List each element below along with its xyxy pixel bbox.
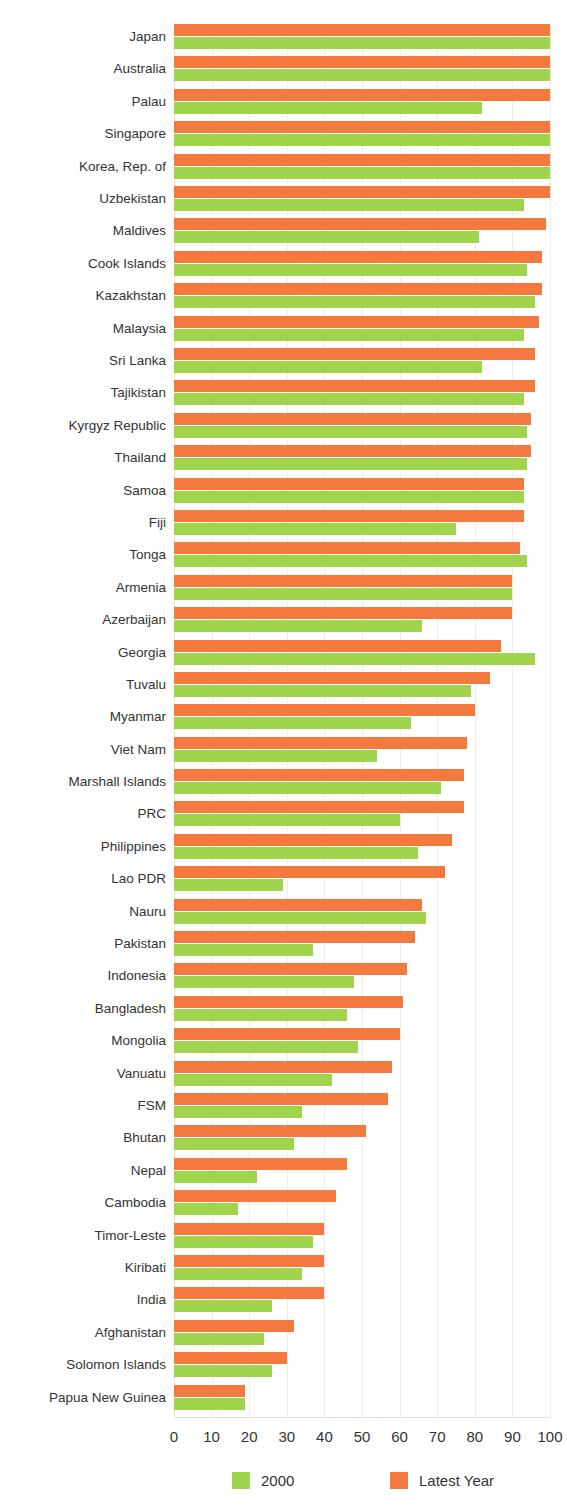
category-label: Cook Islands (0, 257, 166, 271)
x-tick-label-40: 40 (316, 1428, 333, 1445)
bar-2000 (174, 814, 400, 826)
bar-latest-year (174, 510, 524, 522)
bar-latest-year (174, 899, 422, 911)
category-label: FSM (0, 1099, 166, 1113)
bar-row (174, 801, 550, 832)
category-label: Australia (0, 62, 166, 76)
bar-2000 (174, 134, 550, 146)
bar-latest-year (174, 251, 542, 263)
category-label: India (0, 1293, 166, 1307)
bar-latest-year (174, 1093, 388, 1105)
category-label: Viet Nam (0, 743, 166, 757)
bar-latest-year (174, 380, 535, 392)
bar-2000 (174, 717, 411, 729)
category-label: Philippines (0, 840, 166, 854)
bar-2000 (174, 1171, 257, 1183)
bar-2000 (174, 102, 482, 114)
bar-2000 (174, 750, 377, 762)
bar-row (174, 283, 550, 314)
bar-row (174, 1061, 550, 1092)
bar-2000 (174, 1138, 294, 1150)
bar-row (174, 1385, 550, 1416)
bar-latest-year (174, 640, 501, 652)
bar-latest-year (174, 1385, 245, 1397)
bar-2000 (174, 1300, 272, 1312)
legend-item[interactable]: 2000 (232, 1472, 294, 1489)
bar-latest-year (174, 1061, 392, 1073)
bar-row (174, 704, 550, 735)
category-label: Nauru (0, 905, 166, 919)
bar-latest-year (174, 316, 539, 328)
bar-2000 (174, 620, 422, 632)
category-label: Thailand (0, 451, 166, 465)
bar-latest-year (174, 704, 475, 716)
bar-row (174, 575, 550, 606)
bar-latest-year (174, 186, 550, 198)
bar-row (174, 1028, 550, 1059)
legend-item[interactable]: Latest Year (390, 1472, 494, 1489)
category-label: Tajikistan (0, 386, 166, 400)
bar-row (174, 413, 550, 444)
bar-row (174, 1352, 550, 1383)
x-axis-tick-labels: 0102030405060708090100 (174, 1428, 550, 1450)
bar-row (174, 89, 550, 120)
x-tick-label-0: 0 (170, 1428, 178, 1445)
bar-2000 (174, 231, 479, 243)
bar-row (174, 931, 550, 962)
bar-2000 (174, 393, 524, 405)
bar-2000 (174, 1041, 358, 1053)
category-label: Pakistan (0, 937, 166, 951)
bar-2000 (174, 782, 441, 794)
bar-2000 (174, 264, 527, 276)
category-label: Tonga (0, 548, 166, 562)
bar-row (174, 478, 550, 509)
bar-latest-year (174, 931, 415, 943)
bar-2000 (174, 1074, 332, 1086)
bar-row (174, 834, 550, 865)
bar-latest-year (174, 801, 464, 813)
bar-latest-year (174, 1320, 294, 1332)
x-tick-label-20: 20 (241, 1428, 258, 1445)
bar-2000 (174, 976, 354, 988)
bar-2000 (174, 458, 527, 470)
category-label: Lao PDR (0, 872, 166, 886)
category-label: Maldives (0, 224, 166, 238)
bar-latest-year (174, 1223, 324, 1235)
category-label: Timor-Leste (0, 1229, 166, 1243)
legend-swatch-icon (390, 1472, 408, 1489)
category-label: Afghanistan (0, 1326, 166, 1340)
bar-row (174, 218, 550, 249)
bar-row (174, 316, 550, 347)
bar-row (174, 899, 550, 930)
category-label: Bangladesh (0, 1002, 166, 1016)
bar-latest-year (174, 1352, 287, 1364)
category-label: Palau (0, 95, 166, 109)
bar-row (174, 737, 550, 768)
bar-latest-year (174, 56, 550, 68)
bar-row (174, 1255, 550, 1286)
category-label: Kyrgyz Republic (0, 419, 166, 433)
category-label: Myanmar (0, 710, 166, 724)
legend-label: Latest Year (419, 1472, 494, 1489)
x-tick-label-70: 70 (429, 1428, 446, 1445)
bar-latest-year (174, 1287, 324, 1299)
category-label: Sri Lanka (0, 354, 166, 368)
bar-row (174, 56, 550, 87)
bar-2000 (174, 1333, 264, 1345)
bar-latest-year (174, 24, 550, 36)
bar-2000 (174, 588, 512, 600)
category-label: Kazakhstan (0, 289, 166, 303)
bar-2000 (174, 555, 527, 567)
chart-legend: 2000Latest Year (0, 1472, 567, 1498)
bar-row (174, 510, 550, 541)
category-label: Marshall Islands (0, 775, 166, 789)
bar-latest-year (174, 478, 524, 490)
bar-latest-year (174, 1028, 400, 1040)
category-label: Solomon Islands (0, 1358, 166, 1372)
bar-2000 (174, 1009, 347, 1021)
bar-row (174, 866, 550, 897)
bar-2000 (174, 69, 550, 81)
bar-latest-year (174, 834, 452, 846)
bar-2000 (174, 491, 524, 503)
bar-latest-year (174, 1190, 336, 1202)
